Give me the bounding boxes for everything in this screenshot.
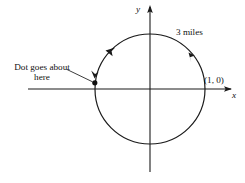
start-point-label: (1, 0) xyxy=(204,75,224,85)
unit-circle-diagram xyxy=(0,0,245,183)
dot-note-label: Dot goes abouthere xyxy=(6,62,78,83)
arc-length-label: 3 miles xyxy=(176,27,203,37)
y-axis-label: y xyxy=(136,4,140,14)
dot-note-line-1: Dot goes about xyxy=(14,62,70,72)
moving-dot-marker xyxy=(92,80,97,85)
dot-note-line-2: here xyxy=(34,72,50,82)
x-axis-label: x xyxy=(232,90,236,100)
